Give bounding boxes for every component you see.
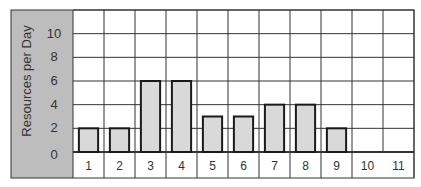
x-tick-label: 3 — [135, 155, 166, 178]
bar-2 — [110, 128, 129, 152]
bar-1 — [79, 128, 98, 152]
x-tick-label: 8 — [290, 155, 321, 178]
x-tick-label: 5 — [197, 155, 228, 178]
resource-histogram-chart: Resources per Day 0246810 1234567891011 — [0, 0, 421, 187]
x-tick-label: 7 — [259, 155, 290, 178]
x-tick-label: 2 — [104, 155, 135, 178]
bar-9 — [327, 128, 346, 152]
x-tick-label: 10 — [352, 155, 383, 178]
bar-6 — [234, 117, 253, 153]
x-tick-label: 1 — [73, 155, 104, 178]
x-tick-label: 4 — [166, 155, 197, 178]
bar-5 — [203, 117, 222, 153]
bar-7 — [265, 105, 284, 152]
bar-8 — [296, 105, 315, 152]
bar-3 — [141, 81, 160, 152]
bar-4 — [172, 81, 191, 152]
x-tick-label: 9 — [321, 155, 352, 178]
x-tick-label: 11 — [383, 155, 414, 178]
x-tick-label: 6 — [228, 155, 259, 178]
